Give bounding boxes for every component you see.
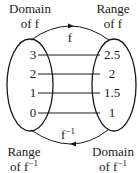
domain-of-f-inverse-label-line2: of f−1 — [99, 158, 127, 173]
range-of-f-inverse-label-line1: Range — [7, 144, 40, 159]
domain-value: 1 — [30, 85, 37, 100]
range-of-f-label-line2: of f — [104, 16, 123, 31]
domain-value: 3 — [30, 47, 37, 62]
domain-of-f-label-line2: of f — [21, 16, 40, 31]
range-of-f-label-line1: Range — [96, 1, 129, 16]
domain-of-f-inverse-label-line1: Domain — [92, 144, 134, 159]
f-inverse-arrowhead-icon — [70, 142, 76, 147]
function-inverse-diagram: Domain of f Range of f f 3 2 1 0 2.5 2 1… — [0, 0, 138, 173]
range-of-f-inverse-label-line2: of f−1 — [10, 158, 38, 173]
f-arrowhead-icon — [68, 24, 74, 29]
range-value: 2 — [109, 66, 116, 81]
domain-value: 0 — [30, 105, 37, 120]
range-value: 1 — [109, 105, 116, 120]
range-value: 1.5 — [104, 85, 120, 100]
domain-value: 2 — [30, 66, 37, 81]
domain-of-f-label-line1: Domain — [9, 1, 51, 16]
f-arrow-label: f — [68, 30, 73, 45]
f-inverse-arrow-label: f−1 — [61, 126, 75, 142]
range-value: 2.5 — [104, 47, 120, 62]
